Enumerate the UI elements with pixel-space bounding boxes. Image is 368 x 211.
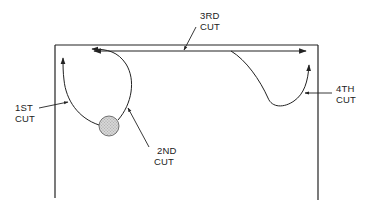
cut1-leader <box>39 102 68 108</box>
start-hole <box>99 116 119 136</box>
cutting-sequence-diagram: 1ST CUT 2ND CUT 3RD CUT 4TH CUT <box>0 0 368 211</box>
cut1-label-line1: 1ST <box>15 102 33 113</box>
cut3-label-line1: 3RD <box>200 10 220 21</box>
cut4-label-line2: CUT <box>336 94 356 105</box>
cut2-label-line2: CUT <box>154 156 174 167</box>
cut2-label: 2ND CUT <box>154 145 177 167</box>
cut4-label: 4TH CUT <box>336 83 356 105</box>
cut1-label-line2: CUT <box>15 113 35 124</box>
cut3-label: 3RD CUT <box>200 10 220 32</box>
cut2-path-arrow <box>92 49 132 120</box>
cut2-leader <box>128 108 149 147</box>
workpiece-frame <box>55 45 318 200</box>
cut3-label-line2: CUT <box>200 21 220 32</box>
cut2-label-line1: 2ND <box>157 145 177 156</box>
cut4-path-arrow <box>231 51 309 106</box>
cut1-label: 1ST CUT <box>15 102 35 124</box>
cut4-label-line1: 4TH <box>336 83 355 94</box>
cut1-path-arrow <box>63 58 99 125</box>
cut3-leader <box>184 27 196 50</box>
